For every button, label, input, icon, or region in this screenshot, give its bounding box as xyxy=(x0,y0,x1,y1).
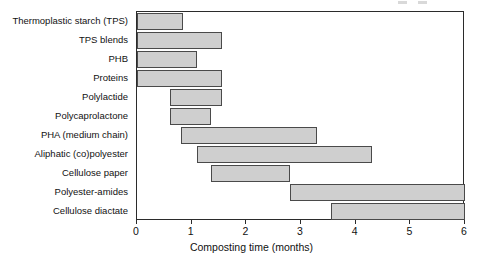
bar xyxy=(137,13,183,30)
x-axis-title: Composting time (months) xyxy=(0,241,477,253)
x-tick xyxy=(355,220,356,224)
category-label: Polycaprolactone xyxy=(0,111,128,121)
category-label: Cellulose paper xyxy=(0,168,128,178)
bar xyxy=(137,51,197,68)
x-axis-tick-labels: 0123456 xyxy=(0,225,477,239)
x-tick-label: 3 xyxy=(297,225,303,237)
bar xyxy=(331,203,465,220)
scan-artifact xyxy=(418,1,427,4)
x-tick xyxy=(191,220,192,224)
composting-time-chart: Thermoplastic starch (TPS)TPS blendsPHBP… xyxy=(0,0,477,261)
bar xyxy=(211,165,290,182)
bar xyxy=(170,89,222,106)
x-tick xyxy=(136,220,137,224)
bar xyxy=(197,146,372,163)
category-label: Proteins xyxy=(0,73,128,83)
x-axis-title-text: Composting time (months) xyxy=(190,241,313,253)
x-tick xyxy=(409,220,410,224)
bar xyxy=(181,127,318,144)
bar xyxy=(170,108,211,125)
category-label: Aliphatic (co)polyester xyxy=(0,149,128,159)
x-tick-label: 1 xyxy=(188,225,194,237)
x-tick xyxy=(300,220,301,224)
scan-artifact xyxy=(398,1,407,4)
category-label: Thermoplastic starch (TPS) xyxy=(0,16,128,26)
bar xyxy=(137,32,222,49)
x-tick-label: 6 xyxy=(461,225,467,237)
bar xyxy=(290,184,465,201)
bar xyxy=(137,70,222,87)
x-tick xyxy=(464,220,465,224)
category-label: PHB xyxy=(0,54,128,64)
plot-area xyxy=(136,11,464,220)
category-label: PHA (medium chain) xyxy=(0,130,128,140)
x-tick xyxy=(245,220,246,224)
x-tick-label: 2 xyxy=(242,225,248,237)
bars-container xyxy=(137,12,463,219)
category-label: Cellulose diactate xyxy=(0,206,128,216)
x-tick-label: 5 xyxy=(406,225,412,237)
category-label: Polylactide xyxy=(0,92,128,102)
x-tick-label: 4 xyxy=(352,225,358,237)
category-label: Polyester-amides xyxy=(0,187,128,197)
x-tick-label: 0 xyxy=(133,225,139,237)
category-axis-labels: Thermoplastic starch (TPS)TPS blendsPHBP… xyxy=(0,11,132,220)
category-label: TPS blends xyxy=(0,35,128,45)
